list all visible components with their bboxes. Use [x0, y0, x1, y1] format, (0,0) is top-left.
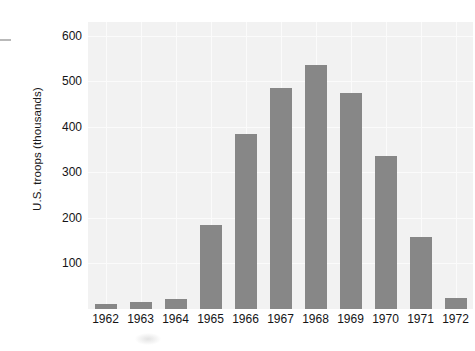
y-tick-label: 200 — [38, 212, 82, 224]
chart-figure: U.S. troops (thousands) 1002003004005006… — [0, 0, 475, 351]
scan-artifact-smudge — [135, 333, 161, 345]
x-axis-tick-labels: 1962196319641965196619671968196919701971… — [88, 312, 473, 332]
bar — [200, 225, 222, 309]
bar — [130, 302, 152, 309]
bar — [340, 93, 362, 309]
x-tick-label: 1968 — [298, 312, 333, 326]
bar — [445, 298, 467, 309]
x-tick-label: 1965 — [193, 312, 228, 326]
y-axis-tick-labels: 100200300400500600 — [32, 0, 82, 351]
bar — [270, 88, 292, 309]
bar — [95, 304, 117, 309]
bar — [305, 65, 327, 309]
bar — [235, 134, 257, 309]
x-tick-label: 1964 — [158, 312, 193, 326]
bar — [410, 237, 432, 309]
x-tick-label: 1972 — [438, 312, 473, 326]
x-tick-label: 1966 — [228, 312, 263, 326]
x-tick-label: 1962 — [88, 312, 123, 326]
bar — [375, 156, 397, 309]
bar-series — [88, 22, 473, 309]
scan-artifact-dash — [0, 39, 11, 41]
y-tick-label: 500 — [38, 75, 82, 87]
y-tick-label: 100 — [38, 257, 82, 269]
y-tick-label: 600 — [38, 30, 82, 42]
x-tick-label: 1963 — [123, 312, 158, 326]
y-tick-label: 300 — [38, 166, 82, 178]
x-tick-label: 1971 — [403, 312, 438, 326]
x-tick-label: 1969 — [333, 312, 368, 326]
y-tick-label: 400 — [38, 121, 82, 133]
plot-area — [88, 22, 473, 309]
bar — [165, 299, 187, 309]
x-tick-label: 1970 — [368, 312, 403, 326]
x-tick-label: 1967 — [263, 312, 298, 326]
